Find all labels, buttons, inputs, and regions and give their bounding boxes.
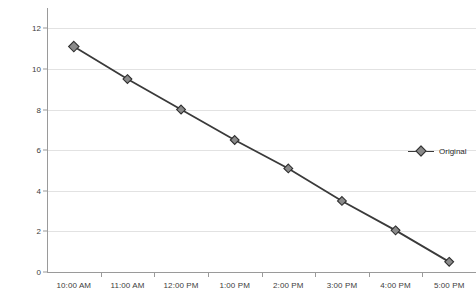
data-point-marker bbox=[69, 41, 79, 51]
legend-swatch-original bbox=[408, 145, 434, 157]
data-point-marker bbox=[177, 105, 186, 114]
line-chart: 024681012 10:00 AM11:00 AM12:00 PM1:00 P… bbox=[0, 0, 476, 298]
data-point-marker bbox=[391, 226, 400, 235]
series-layer bbox=[0, 0, 476, 298]
data-point-marker bbox=[338, 197, 347, 206]
data-point-marker bbox=[230, 136, 239, 145]
legend-label-original: Original bbox=[439, 147, 467, 156]
diamond-marker-icon bbox=[415, 145, 426, 156]
chart-legend: Original bbox=[408, 145, 467, 157]
data-point-marker bbox=[123, 75, 132, 84]
data-point-marker bbox=[284, 164, 293, 173]
data-point-marker bbox=[445, 257, 454, 266]
